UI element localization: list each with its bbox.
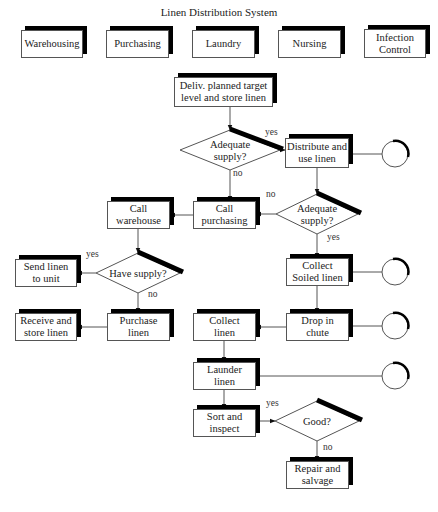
decision-label-adequate-supply-2: Adequate supply? bbox=[297, 203, 337, 227]
process-launder-linen: Launder linen bbox=[193, 362, 256, 390]
department-infection-control: Infection Control bbox=[364, 29, 426, 58]
process-call-purchasing: Call purchasing bbox=[193, 201, 256, 229]
terminal-4-circle-icon bbox=[382, 363, 408, 389]
flow-label-no: no bbox=[233, 168, 243, 178]
process-sort-inspect: Sort and inspect bbox=[193, 409, 256, 437]
department-laundry: Laundry bbox=[192, 30, 255, 58]
process-repair-salvage: Repair and salvage bbox=[286, 461, 349, 489]
terminal-3-circle-icon bbox=[382, 313, 408, 339]
department-purchasing: Purchasing bbox=[106, 30, 169, 58]
flow-label-yes: yes bbox=[266, 398, 279, 408]
process-collect-soiled: Collect Soiled linen bbox=[286, 258, 349, 286]
flow-label-no: no bbox=[148, 289, 158, 299]
terminal-1-circle-icon bbox=[382, 141, 408, 167]
flow-label-yes: yes bbox=[327, 232, 340, 242]
flow-label-yes: yes bbox=[265, 127, 278, 137]
flowchart-canvas: Linen Distribution System Adequate suppl… bbox=[0, 0, 438, 512]
process-distribute-use: Distribute and use linen bbox=[285, 138, 349, 168]
terminal-2-circle-icon bbox=[382, 259, 408, 285]
process-send-linen: Send linen to unit bbox=[15, 259, 77, 287]
flow-label-no: no bbox=[323, 442, 333, 452]
process-receive-store: Receive and store linen bbox=[15, 313, 77, 341]
decision-label-good: Good? bbox=[303, 416, 331, 428]
process-drop-chute: Drop in chute bbox=[286, 313, 349, 341]
process-purchase-linen: Purchase linen bbox=[107, 313, 170, 341]
process-deliv-target: Deliv. planned target level and store li… bbox=[174, 77, 273, 107]
decision-label-have-supply: Have supply? bbox=[109, 268, 166, 280]
process-collect-linen: Collect linen bbox=[193, 313, 256, 341]
flow-label-yes: yes bbox=[86, 249, 99, 259]
department-nursing: Nursing bbox=[278, 30, 341, 58]
department-warehousing: Warehousing bbox=[21, 30, 83, 58]
process-call-warehouse: Call warehouse bbox=[107, 201, 170, 229]
flow-label-no: no bbox=[266, 189, 276, 199]
decision-label-adequate-supply-1: Adequate supply? bbox=[210, 139, 250, 163]
